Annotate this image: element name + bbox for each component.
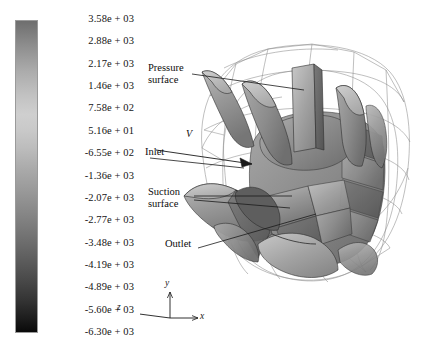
inlet-leader-line [150, 158, 244, 168]
annotation-pressure-surface-line2: surface [148, 74, 184, 86]
colorbar-tick-label: -6.55e + 02 [46, 147, 134, 158]
impeller-render: Pressure surface Inlet Suction surface O… [140, 0, 427, 347]
annotation-outlet: Outlet [165, 238, 191, 250]
axes-triad-lines [140, 292, 198, 320]
velocity-label: V [186, 128, 192, 139]
colorbar-tick-label: 2.88e + 03 [46, 35, 134, 46]
colorbar-tick-label: -3.48e + 03 [46, 237, 134, 248]
annotation-pressure-surface-line1: Pressure [148, 62, 184, 74]
cfd-figure: 3.58e + 032.88e + 032.17e + 031.46e + 03… [0, 0, 427, 347]
axis-label-y: y [165, 278, 169, 288]
colorbar-tick-label: 1.46e + 03 [46, 80, 134, 91]
annotation-suction-surface: Suction surface [148, 186, 180, 210]
axis-label-x: x [200, 311, 204, 321]
colorbar-tick-label: -2.07e + 03 [46, 192, 134, 203]
annotation-outlet-line1: Outlet [165, 238, 191, 250]
colorbar-tick-label: 5.16e + 01 [46, 125, 134, 136]
colorbar-tick-label: -6.30e + 03 [46, 326, 134, 337]
colorbar-tick-label: 2.17e + 03 [46, 58, 134, 69]
annotation-inlet-line1: Inlet [145, 146, 164, 158]
colorbar-tick-label: -4.19e + 03 [46, 259, 134, 270]
colorbar-tick-label: -2.77e + 03 [46, 214, 134, 225]
annotation-suction-surface-line1: Suction [148, 186, 180, 198]
annotation-pressure-surface: Pressure surface [148, 62, 184, 86]
colorbar-tick-label: -4.89e + 03 [46, 281, 134, 292]
colorbar-tick-label: 7.58e + 02 [46, 102, 134, 113]
impeller-geometry-svg [140, 0, 427, 347]
annotation-suction-surface-line2: surface [148, 198, 180, 210]
colorbar-group: 3.58e + 032.88e + 032.17e + 031.46e + 03… [0, 0, 140, 347]
colorbar-tick-label: 3.58e + 03 [46, 13, 134, 24]
pressure-colorbar [15, 20, 38, 333]
annotation-inlet: Inlet [145, 146, 164, 158]
colorbar-tick-label: -1.36e + 03 [46, 170, 134, 181]
axis-label-z: z [117, 302, 121, 312]
